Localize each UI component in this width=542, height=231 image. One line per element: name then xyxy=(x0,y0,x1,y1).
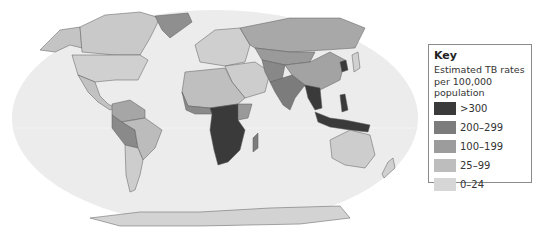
key-item-0-24: 0–24 xyxy=(434,176,526,194)
swatch-over-300 xyxy=(434,102,456,115)
key-label: 200–299 xyxy=(460,122,503,133)
key-item-200-299: 200–299 xyxy=(434,119,526,137)
key-item-25-99: 25–99 xyxy=(434,157,526,175)
swatch-0-24 xyxy=(434,178,456,191)
world-map-svg xyxy=(0,0,420,231)
key-title: Key xyxy=(434,49,526,62)
map-key: Key Estimated TB rates per 100,000 popul… xyxy=(428,44,532,183)
key-item-over-300: >300 xyxy=(434,100,526,118)
world-map xyxy=(0,0,420,231)
key-label: 25–99 xyxy=(460,160,490,171)
key-label: 0–24 xyxy=(460,179,484,190)
key-label: 100–199 xyxy=(460,141,503,152)
key-subtitle: Estimated TB rates per 100,000 populatio… xyxy=(434,64,526,99)
swatch-25-99 xyxy=(434,159,456,172)
key-item-100-199: 100–199 xyxy=(434,138,526,156)
swatch-200-299 xyxy=(434,121,456,134)
key-label: >300 xyxy=(460,103,487,114)
swatch-100-199 xyxy=(434,140,456,153)
